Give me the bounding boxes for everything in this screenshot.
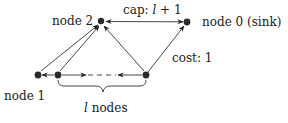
node-1 [35,72,42,79]
edge-chainB-node0-cost [148,26,184,72]
chain-node-last [143,72,150,79]
label-l-nodes: l nodes [84,101,128,115]
brace [58,80,146,92]
edge-chainA-node2 [60,26,99,71]
edges [41,22,184,76]
label-cost: cost: 1 [172,51,212,65]
edge-node1-node2 [41,25,98,71]
label-capacity: cap: l + 1 [123,3,182,17]
node-2 [98,18,104,24]
cap-prefix: cap: [123,3,152,17]
cap-suffix: + 1 [156,3,181,17]
flow-network-diagram: node 2 node 0 (sink) node 1 cap: l + 1 c… [0,0,288,123]
brace-suffix: nodes [88,101,128,115]
label-node-1: node 1 [4,89,45,103]
edge-chainB-node2 [104,26,144,71]
node-0-sink [184,19,191,26]
label-node-2: node 2 [52,14,93,28]
chain-node-first [55,72,62,79]
label-node-0-sink: node 0 (sink) [202,15,281,29]
